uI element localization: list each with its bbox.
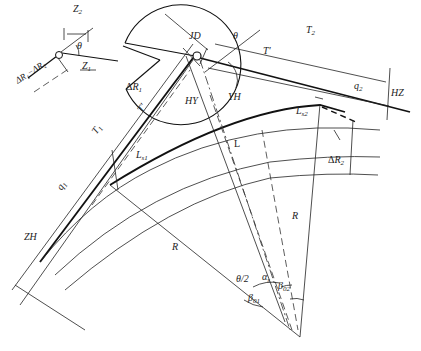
label-t-prime-top: T′ (263, 46, 271, 56)
label-alpha-s: αs (262, 272, 270, 284)
curve-geometry-diagram: Z2 θ Z1 ΔR₁−ΔR₂ JD θ T2 T′ q2 HZ HY YH Δ… (0, 0, 421, 351)
label-jd: JD (189, 31, 201, 41)
diagram-svg (0, 0, 421, 351)
label-hy: HY (185, 96, 198, 106)
label-l: L (234, 139, 240, 149)
label-z1: Z1 (82, 61, 91, 73)
label-theta: θ (233, 31, 238, 41)
label-q2: q2 (354, 81, 363, 93)
label-zh: ZH (24, 232, 37, 242)
label-hz: HZ (391, 88, 404, 98)
label-r-left: R (172, 242, 178, 252)
label-r-right: R (292, 211, 298, 221)
label-z2: Z2 (73, 4, 82, 16)
label-theta-half: θ/2 (236, 274, 249, 284)
label-delta-r2: ΔΔRR2 (328, 155, 344, 167)
label-ls2: Ls2 (296, 106, 308, 118)
label-beta02: β02 (278, 281, 290, 293)
dimension-lines (15, 14, 390, 330)
label-delta-r1: ΔΔRR1 (126, 82, 142, 94)
radial-lines (110, 56, 320, 337)
inset-jd-marker (56, 52, 63, 59)
label-ls1: Ls1 (136, 150, 148, 162)
label-theta-inset: θ (77, 41, 82, 51)
label-t2: T2 (306, 25, 315, 37)
curves (40, 70, 380, 290)
label-beta01: β01 (248, 293, 260, 305)
jd-marker (193, 52, 201, 60)
label-yh: YH (228, 92, 241, 102)
